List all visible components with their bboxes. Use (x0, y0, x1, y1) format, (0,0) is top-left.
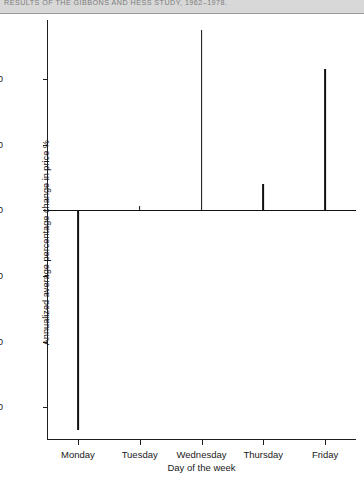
chart-figure: +20+100−10−20−30 MondayTuesdayWednesdayT… (0, 14, 364, 484)
bar (262, 184, 264, 210)
x-tick (263, 440, 264, 445)
x-tick (202, 440, 203, 445)
x-tick-label: Friday (312, 450, 338, 460)
y-tick (43, 407, 48, 408)
x-tick (78, 440, 79, 445)
y-tick (43, 79, 48, 80)
page-header-strip: RESULTS OF THE GIBBONS AND HESS STUDY, 1… (0, 0, 364, 14)
bar (139, 206, 141, 211)
y-tick-label: +20 (0, 74, 3, 83)
y-tick-label: 0 (0, 205, 3, 214)
x-tick-label: Monday (61, 450, 95, 460)
y-tick-label: +10 (0, 140, 3, 149)
x-tick-label: Wednesday (177, 450, 227, 460)
x-tick-label: Tuesday (122, 450, 158, 460)
y-tick-label: −20 (0, 337, 3, 346)
y-tick-label: −30 (0, 402, 3, 411)
y-axis-title: Annualized average percentage change in … (41, 140, 51, 345)
x-tick (325, 440, 326, 445)
x-axis-title: Day of the week (47, 462, 356, 473)
bar (201, 30, 203, 210)
bar (324, 69, 326, 210)
figure-caption: RESULTS OF THE GIBBONS AND HESS STUDY, 1… (4, 0, 227, 8)
x-tick-label: Thursday (243, 450, 283, 460)
y-tick-label: −10 (0, 271, 3, 280)
x-tick (140, 440, 141, 445)
bar (77, 210, 79, 430)
plot-area: +20+100−10−20−30 MondayTuesdayWednesdayT… (47, 20, 356, 440)
